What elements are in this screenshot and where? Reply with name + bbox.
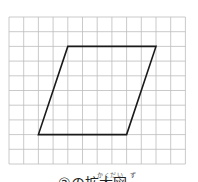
grid-figure [0, 0, 198, 182]
caption-text: ②の拡大図 [58, 176, 127, 182]
grid-lines [9, 17, 185, 164]
